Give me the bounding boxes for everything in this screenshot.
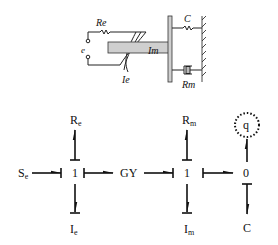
bond-graph: Se 1 GY 1 0 Re Ie Rm Im C q [18, 113, 259, 237]
node-junction0: 0 [243, 166, 249, 180]
label-im: Im [147, 45, 159, 56]
node-im: Im [184, 222, 195, 237]
node-c: C [243, 221, 251, 235]
node-se: Se [18, 166, 29, 181]
electromechanical-schematic: Re e Ie Im C Rm [81, 13, 206, 90]
node-ie: Ie [70, 222, 78, 237]
terminal-bottom-icon [86, 55, 90, 59]
node-re: Re [70, 113, 82, 128]
node-rm: Rm [182, 113, 197, 128]
node-q: q [243, 118, 249, 132]
spring-c-icon [172, 26, 202, 30]
node-junction1-left: 1 [72, 166, 78, 180]
label-re: Re [95, 17, 107, 28]
label-ie: Ie [121, 74, 130, 85]
label-c: C [184, 13, 191, 24]
label-e: e [81, 45, 85, 55]
mass-plate [168, 16, 172, 82]
wall-icon [202, 16, 206, 82]
label-rm: Rm [181, 79, 195, 90]
node-gyrator: GY [120, 166, 138, 180]
diagram-canvas: Re e Ie Im C Rm Se 1 GY 1 0 Re Ie Rm Im … [0, 0, 278, 245]
node-junction1-right: 1 [184, 166, 190, 180]
resistor-re-icon [100, 30, 110, 34]
damper-rm-icon [172, 66, 202, 74]
mass-bar [108, 42, 170, 53]
terminal-top-icon [86, 39, 90, 43]
